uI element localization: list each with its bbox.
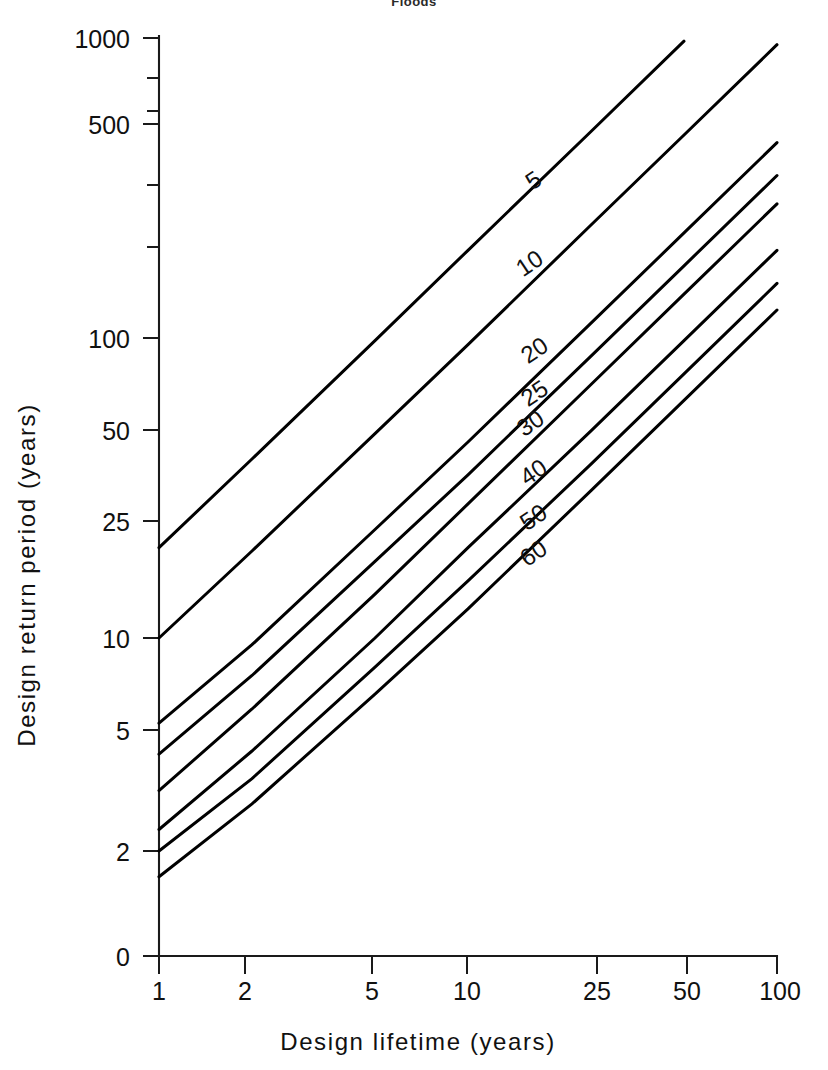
y-tick-label-10: 10 bbox=[102, 625, 130, 653]
curve-20 bbox=[159, 143, 777, 724]
y-tick-label-50: 50 bbox=[102, 417, 130, 445]
y-axis-title: Design return period (years) bbox=[13, 403, 40, 747]
chart-figure: Floods bbox=[0, 0, 828, 1070]
x-axis-title: Design lifetime (years) bbox=[280, 1028, 556, 1055]
curve-labels: 510202530405060 bbox=[511, 165, 553, 572]
x-tick-label-25: 25 bbox=[583, 977, 611, 1005]
curve-label-40: 40 bbox=[515, 453, 552, 490]
curve-40 bbox=[159, 250, 777, 829]
curve-label-20: 20 bbox=[516, 331, 553, 368]
y-tick-label-100: 100 bbox=[88, 325, 130, 353]
curve-5 bbox=[159, 41, 684, 548]
x-tick-label-5: 5 bbox=[365, 977, 379, 1005]
curve-label-60: 60 bbox=[515, 534, 552, 571]
x-tick-label-1: 1 bbox=[152, 977, 166, 1005]
curve-label-10: 10 bbox=[511, 244, 548, 281]
y-tick-label-25: 25 bbox=[102, 508, 130, 536]
y-tick-labels: 1000 500 100 50 25 10 5 2 0 bbox=[74, 25, 130, 971]
data-curves bbox=[159, 41, 777, 877]
curve-25 bbox=[159, 176, 777, 755]
curve-label-30: 30 bbox=[512, 404, 549, 441]
x-axis bbox=[159, 956, 777, 974]
chart-canvas: 1000 500 100 50 25 10 5 2 0 1 2 5 10 25 … bbox=[0, 0, 828, 1070]
y-tick-label-1000: 1000 bbox=[74, 25, 130, 53]
curve-50 bbox=[159, 283, 777, 851]
y-axis bbox=[143, 36, 159, 956]
x-tick-label-100: 100 bbox=[759, 977, 801, 1005]
x-tick-label-50: 50 bbox=[673, 977, 701, 1005]
x-tick-labels: 1 2 5 10 25 50 100 bbox=[152, 977, 801, 1005]
x-tick-label-2: 2 bbox=[238, 977, 252, 1005]
y-tick-label-5: 5 bbox=[116, 717, 130, 745]
x-tick-label-10: 10 bbox=[453, 977, 481, 1005]
curve-30 bbox=[159, 204, 777, 791]
y-tick-label-2: 2 bbox=[116, 838, 130, 866]
curve-60 bbox=[159, 310, 777, 877]
y-tick-label-500: 500 bbox=[88, 111, 130, 139]
y-tick-label-0: 0 bbox=[116, 943, 130, 971]
